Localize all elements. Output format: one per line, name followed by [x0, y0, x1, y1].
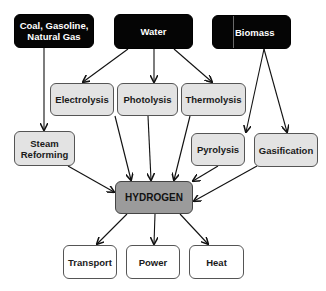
node-photolysis-label: Photolysis [123, 94, 171, 105]
node-water: Water [114, 14, 193, 49]
arrow-hydrogen-to-power [154, 214, 155, 244]
node-photolysis: Photolysis [117, 83, 178, 116]
node-biomass-label: Biomass [235, 27, 275, 38]
node-power-label: Power [139, 257, 168, 268]
arrow-thermolysis-to-hydrogen [174, 116, 190, 180]
arrow-gasification-to-hydrogen [194, 166, 257, 201]
node-pyrolysis: Pyrolysis [191, 133, 245, 166]
arrow-biomass-to-gasification [264, 49, 287, 132]
node-thermolysis-label: Thermolysis [186, 94, 242, 105]
node-heat-label: Heat [206, 257, 227, 268]
node-heat: Heat [189, 245, 244, 279]
node-fossil-fuels-label: Coal, Gasoline, Natural Gas [19, 20, 89, 42]
node-water-label: Water [140, 26, 166, 37]
arrow-hydrogen-to-heat [180, 214, 208, 244]
node-transport-label: Transport [68, 257, 112, 268]
node-gasification: Gasification [254, 133, 318, 167]
node-thermolysis: Thermolysis [181, 83, 246, 116]
arrow-biomass-to-pyrolysis [246, 49, 264, 132]
node-electrolysis-label: Electrolysis [55, 94, 108, 105]
biomass-seam-line [233, 16, 234, 48]
arrow-pyrolysis-to-hydrogen [193, 166, 218, 181]
node-pyrolysis-label: Pyrolysis [197, 144, 239, 155]
arrow-water-to-thermolysis [174, 49, 212, 82]
node-hydrogen-label: HYDROGEN [125, 192, 183, 203]
hydrogen-pathways-diagram: Coal, Gasoline, Natural Gas Water Biomas… [0, 0, 326, 291]
node-steam-reforming: Steam Reforming [14, 131, 75, 166]
node-gasification-label: Gasification [259, 145, 313, 156]
node-steam-reforming-label: Steam Reforming [21, 138, 69, 160]
node-power: Power [126, 245, 180, 279]
node-electrolysis: Electrolysis [50, 83, 114, 116]
arrow-steam-reforming-to-hydrogen [68, 166, 114, 192]
arrow-hydrogen-to-transport [97, 214, 127, 244]
node-transport: Transport [63, 245, 117, 279]
node-fossil-fuels: Coal, Gasoline, Natural Gas [14, 14, 94, 48]
arrow-photolysis-to-hydrogen [148, 116, 151, 180]
node-biomass: Biomass [212, 15, 291, 49]
node-hydrogen: HYDROGEN [115, 181, 193, 214]
arrow-electrolysis-to-hydrogen [115, 116, 131, 180]
arrow-water-to-electrolysis [83, 49, 128, 82]
